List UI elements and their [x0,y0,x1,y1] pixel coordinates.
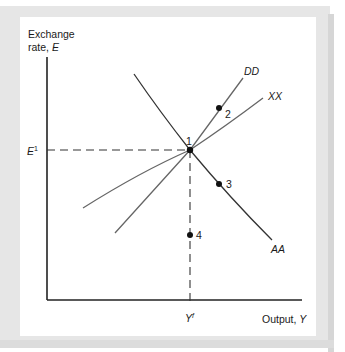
point-1 [187,147,193,153]
point-4-label: 4 [196,229,202,241]
y-axis-label-line2: rate, E [28,41,60,53]
point-2 [216,105,222,111]
point-4 [187,232,193,238]
xx-label: XX [267,90,283,102]
y-axis-label-line1: Exchange [28,28,75,40]
point-3 [216,181,222,187]
dd-aa-xx-diagram: Exchange rate, E Output, Y E1 Yf DD XX A… [0,0,345,352]
xx-curve [83,98,263,208]
yf-label: Yf [185,312,195,324]
aa-label: AA [270,243,285,255]
point-1-label: 1 [186,135,192,147]
x-axis-label: Output, Y [262,313,307,325]
aa-curve [134,74,272,240]
point-3-label: 3 [226,178,232,190]
e1-label: E1 [27,145,38,157]
dd-label: DD [244,65,260,77]
point-2-label: 2 [225,108,231,120]
